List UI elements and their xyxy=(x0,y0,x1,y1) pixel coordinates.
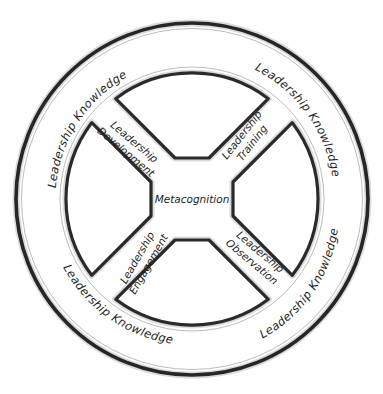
leadership-model-diagram: Leadership Knowledge Leadership Knowledg… xyxy=(0,0,383,394)
hub-label: Metacognition xyxy=(155,193,230,205)
